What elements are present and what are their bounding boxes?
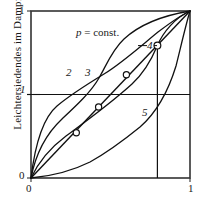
intersection-marker bbox=[123, 72, 129, 78]
intersection-marker bbox=[96, 104, 102, 110]
chart-canvas bbox=[0, 0, 220, 210]
intersection-marker bbox=[73, 130, 79, 136]
chart-root: Leichtersiedendes im Dampf y 1 0 0 1 p =… bbox=[0, 0, 220, 210]
